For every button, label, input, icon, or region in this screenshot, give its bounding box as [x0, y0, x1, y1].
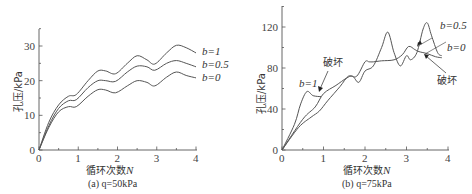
y-tick-label: 80 [267, 62, 279, 74]
x-tick-label: 3 [404, 152, 410, 164]
series-label-b1-right: b=1 [299, 77, 317, 89]
x-tick-label: 0 [279, 152, 285, 164]
x-tick-label: 2 [115, 152, 121, 164]
chart-a-series [39, 45, 196, 150]
x-tick-label: 1 [75, 152, 81, 164]
series-label-b1: b=1 [202, 45, 220, 57]
y-tick-label: 120 [262, 21, 279, 33]
failure-label-2: 破坏 [437, 74, 457, 86]
leader-b0 [425, 42, 446, 54]
caption-a: (a) q=50kPa [88, 178, 138, 190]
x-axis-label-b: 循环次数N [343, 164, 391, 176]
chart-a-ticks [39, 29, 196, 150]
y-tick-label: 10 [24, 109, 36, 121]
x-tick-label: 3 [154, 152, 160, 164]
x-tick-label: 1 [321, 152, 327, 164]
chart-a: 012340102030 b=1 b=0.5 b=0 孔压/kPa 循环次数N … [13, 29, 229, 190]
failure-label-1: 破坏 [323, 56, 343, 68]
x-tick-label: 4 [445, 152, 451, 164]
x-axis-label-a: 循环次数N [86, 164, 134, 176]
series-line-b0 [39, 72, 196, 150]
y-tick-label: 40 [267, 103, 279, 115]
chart-b: 0123404080120 破坏 破坏 b=1 b=0.5 b=0 孔压/kPa… [256, 6, 467, 190]
series-label-b0-right: b=0 [447, 41, 466, 53]
y-tick-label: 20 [24, 75, 36, 87]
figure-canvas: 012340102030 b=1 b=0.5 b=0 孔压/kPa 循环次数N … [0, 0, 472, 194]
x-tick-label: 2 [362, 152, 368, 164]
series-label-b05: b=0.5 [202, 58, 229, 70]
series-label-b05-right: b=0.5 [440, 19, 467, 31]
y-axis-label-b: 孔压/kPa [256, 73, 267, 114]
y-tick-label: 0 [273, 144, 279, 156]
series-label-b0: b=0 [202, 71, 221, 83]
caption-b: (b) q=75kPa [342, 178, 392, 190]
failure-annotation-b1: 破坏 [318, 56, 343, 92]
x-tick-label: 4 [193, 152, 199, 164]
series-line-b0 [282, 46, 442, 150]
failure-annotation-b0: 破坏 [424, 54, 457, 86]
y-tick-label: 0 [30, 144, 36, 156]
x-tick-label: 0 [36, 152, 42, 164]
chart-a-tick-labels: 012340102030 [24, 40, 199, 164]
y-tick-label: 30 [24, 40, 36, 52]
y-axis-label-a: 孔压/kPa [13, 71, 24, 112]
chart-b-tick-labels: 0123404080120 [262, 21, 452, 164]
